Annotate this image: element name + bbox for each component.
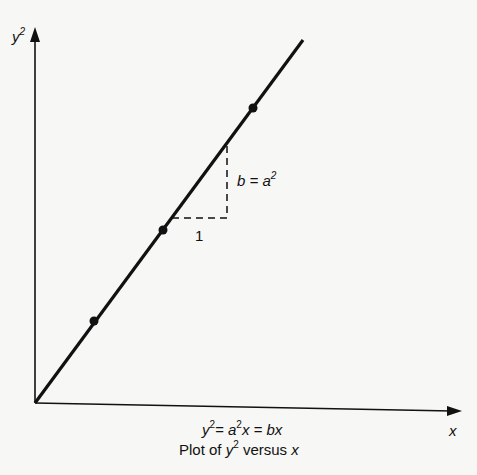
x-axis-arrow-icon <box>447 406 462 416</box>
data-point <box>159 226 168 235</box>
plot-canvas <box>0 0 477 475</box>
caption: Plot of y2 versus x <box>179 441 299 458</box>
x-axis <box>35 403 452 411</box>
data-point <box>90 317 99 326</box>
y-axis-label: y2 <box>12 28 25 45</box>
data-point <box>249 104 258 113</box>
y-axis-arrow-icon <box>30 27 40 42</box>
x-axis-label: x <box>449 422 457 439</box>
slope-rise-label: b = a2 <box>237 172 276 189</box>
data-line <box>35 40 303 403</box>
slope-run-label: 1 <box>195 227 203 244</box>
equation-label: y2= a2x = bx <box>202 421 282 438</box>
